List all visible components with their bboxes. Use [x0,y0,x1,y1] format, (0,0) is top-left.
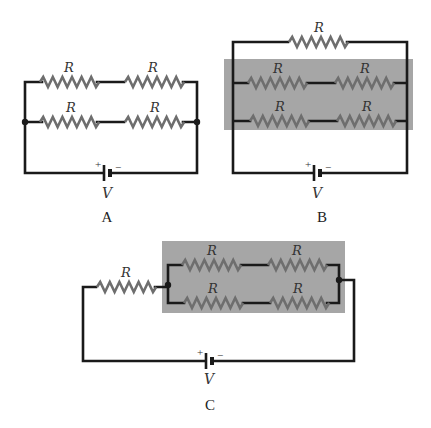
circuit-a: R R R R + − V A [22,60,200,225]
circuit-b-battery-plus: + [305,158,311,170]
circuit-b-caption: B [317,209,327,225]
circuit-b-r-label: R [274,99,285,114]
circuit-c-resistor-series [97,282,156,292]
circuit-a-battery-minus: − [115,161,121,173]
circuit-b-r-label: R [359,61,370,76]
circuit-c-r-label: R [120,265,131,280]
circuit-a-r-label: R [149,100,160,115]
circuit-c-v-label: V [204,371,216,387]
circuit-a-resistor-3 [40,117,99,127]
circuit-a-v-label: V [102,185,114,201]
circuit-a-r-label: R [65,100,76,115]
circuit-c-r-label: R [207,281,218,296]
circuit-c-junction-right [336,277,342,283]
circuit-b-r-label: R [313,20,324,35]
circuit-a-resistor-4 [125,117,184,127]
circuit-b-v-label: V [312,185,324,201]
circuit-c-battery-plus: + [197,346,203,358]
circuit-c-r-label: R [292,281,303,296]
circuit-a-battery-plus: + [95,158,101,170]
circuit-a-caption: A [102,209,113,225]
circuit-b-r-label: R [361,99,372,114]
circuit-c-battery-icon [206,353,214,369]
circuit-b-resistor-top [289,37,348,47]
circuit-c-battery-minus: − [217,349,223,361]
circuit-c-r-label: R [206,243,217,258]
circuit-b-battery-icon [314,165,322,181]
circuit-a-r-label: R [147,60,158,75]
circuit-a-junction-left [22,119,28,125]
circuit-a-junction-right [194,119,200,125]
circuit-c-caption: C [205,397,215,413]
circuit-a-battery-icon [104,165,112,181]
circuit-figure: R R R R + − V A R R R R R + − V B [0,0,431,428]
circuit-c-junction-left [165,282,171,288]
circuit-c: R R R R R + − V C [83,241,354,413]
circuit-b-battery-minus: − [325,161,331,173]
circuit-a-resistor-1 [40,77,99,87]
circuit-b: R R R R R + − V B [224,20,413,225]
circuit-c-r-label: R [291,243,302,258]
circuit-a-r-label: R [63,60,74,75]
circuit-b-r-label: R [272,61,283,76]
circuit-a-resistor-2 [125,77,184,87]
